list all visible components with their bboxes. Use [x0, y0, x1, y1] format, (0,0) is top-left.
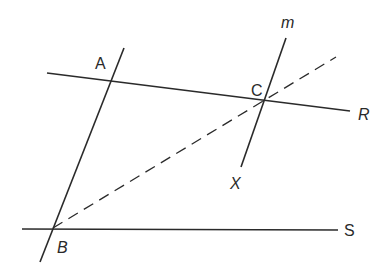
- label-C: C: [251, 82, 263, 99]
- label-m: m: [281, 14, 294, 31]
- label-A: A: [95, 55, 106, 72]
- line-BS: [22, 229, 338, 230]
- label-R: R: [358, 106, 370, 123]
- label-X: X: [229, 175, 242, 192]
- geometry-diagram: A m C R X B S: [0, 0, 389, 273]
- line-BC-dashed: [53, 57, 336, 228]
- label-S: S: [344, 222, 355, 239]
- line-AR: [47, 73, 350, 111]
- label-B: B: [57, 239, 68, 256]
